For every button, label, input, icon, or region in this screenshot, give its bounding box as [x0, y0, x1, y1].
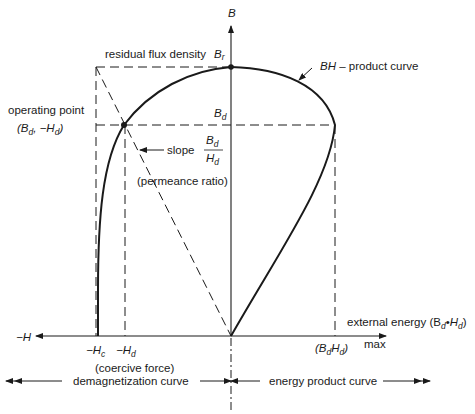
residual-flux-label: residual flux density: [105, 48, 206, 60]
external-energy-label: external energy (Bd•Hd): [347, 316, 467, 331]
demagnetization-curve-label: demagnetization curve: [73, 375, 189, 387]
hc-label: −Hc: [86, 344, 106, 359]
slope-numerator: Bd: [206, 134, 219, 149]
b-axis-label: B: [228, 7, 236, 19]
permeance-label: (permeance ratio): [137, 175, 228, 187]
energy-product-curve-label: energy product curve: [269, 375, 377, 387]
operating-point-label: operating point: [8, 104, 85, 116]
energy-double-arrowhead: [414, 378, 422, 384]
operating-point: [121, 122, 127, 128]
coercive-force-label: (coercive force): [95, 362, 174, 374]
neg-h-axis-label: −H: [16, 331, 32, 343]
slope-denominator: Hd: [206, 152, 219, 167]
hd-label: −Hd: [116, 344, 136, 359]
bdhd-max-label: (BdHd): [315, 342, 348, 357]
operating-point-coords: (Bd, −Hd): [17, 122, 63, 137]
bh-curve-label: BH – product curve: [320, 60, 418, 72]
slope-label: slope: [167, 144, 195, 156]
br-label: Br: [214, 48, 226, 62]
demag-double-arrowhead: [14, 378, 22, 384]
bd-label: Bd: [214, 107, 227, 122]
max-label: max: [364, 338, 386, 350]
bh-product-curve: [231, 67, 335, 336]
permeance-slope-line: [96, 67, 231, 336]
demagnetization-diagram: B residual flux density Br BH – product …: [0, 0, 475, 414]
bh-curve-leader: [299, 68, 312, 80]
br-point: [228, 64, 234, 70]
